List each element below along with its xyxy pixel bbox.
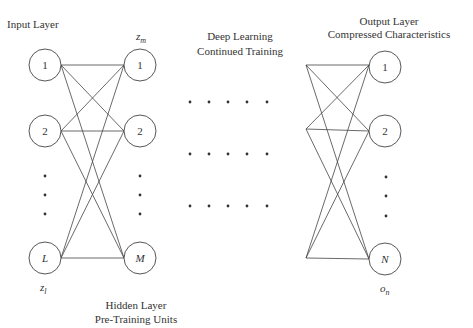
input-node-1: 1	[29, 49, 61, 81]
input-ellipsis-dots	[44, 175, 47, 216]
svg-text:1: 1	[382, 61, 388, 73]
input-layer-label: Input Layer	[7, 18, 59, 30]
input-bottom-variable-label: zl	[39, 281, 47, 296]
continued-training-label: Continued Training	[197, 45, 283, 57]
continued-training-dot-grid	[189, 101, 269, 208]
output-bottom-variable-label: on	[380, 282, 390, 297]
svg-text:2: 2	[382, 125, 388, 137]
hidden-top-variable-label: zm	[135, 30, 146, 45]
svg-text:2: 2	[137, 125, 143, 137]
input-node-L: L	[29, 242, 61, 274]
hidden-ellipsis-dots	[139, 175, 142, 216]
input-node-2: 2	[29, 115, 61, 147]
hidden-node-M: M	[124, 242, 156, 274]
deep-learning-label: Deep Learning	[207, 30, 273, 42]
hidden-node-1: 1	[124, 49, 156, 81]
hidden-node-2: 2	[124, 115, 156, 147]
output-node-1: 1	[369, 51, 401, 83]
network-diagram: Input Layer zm Deep Learning Continued T…	[0, 0, 473, 328]
svg-text:1: 1	[42, 59, 48, 71]
output-layer-label: Output Layer	[360, 15, 419, 27]
svg-text:2: 2	[42, 125, 48, 137]
hidden-layer-label: Hidden Layer	[106, 299, 167, 311]
input-hidden-edges	[61, 65, 124, 258]
svg-text:M: M	[134, 252, 145, 264]
svg-text:N: N	[380, 253, 389, 265]
svg-text:L: L	[41, 252, 48, 264]
svg-text:1: 1	[137, 59, 143, 71]
output-node-2: 2	[369, 115, 401, 147]
compressed-characteristics-label: Compressed Characteristics	[328, 28, 451, 40]
output-ellipsis-dots	[385, 176, 388, 218]
output-edges	[306, 65, 369, 259]
pre-training-units-label: Pre-Training Units	[95, 313, 177, 325]
output-node-N: N	[369, 243, 401, 275]
